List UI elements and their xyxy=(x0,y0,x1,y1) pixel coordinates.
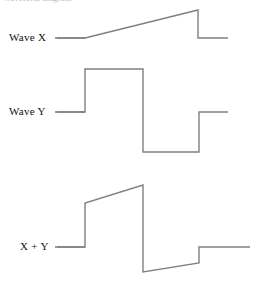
sum-wave-trace xyxy=(55,185,250,272)
waveform-figure: waveform diagram Wave X Wave Y X + Y xyxy=(0,0,267,284)
sum-wave-label: X + Y xyxy=(20,240,49,252)
wave-x-trace xyxy=(55,10,228,38)
wave-y-label: Wave Y xyxy=(9,105,46,117)
wave-y-trace xyxy=(55,69,228,152)
wave-x-label: Wave X xyxy=(9,31,46,43)
